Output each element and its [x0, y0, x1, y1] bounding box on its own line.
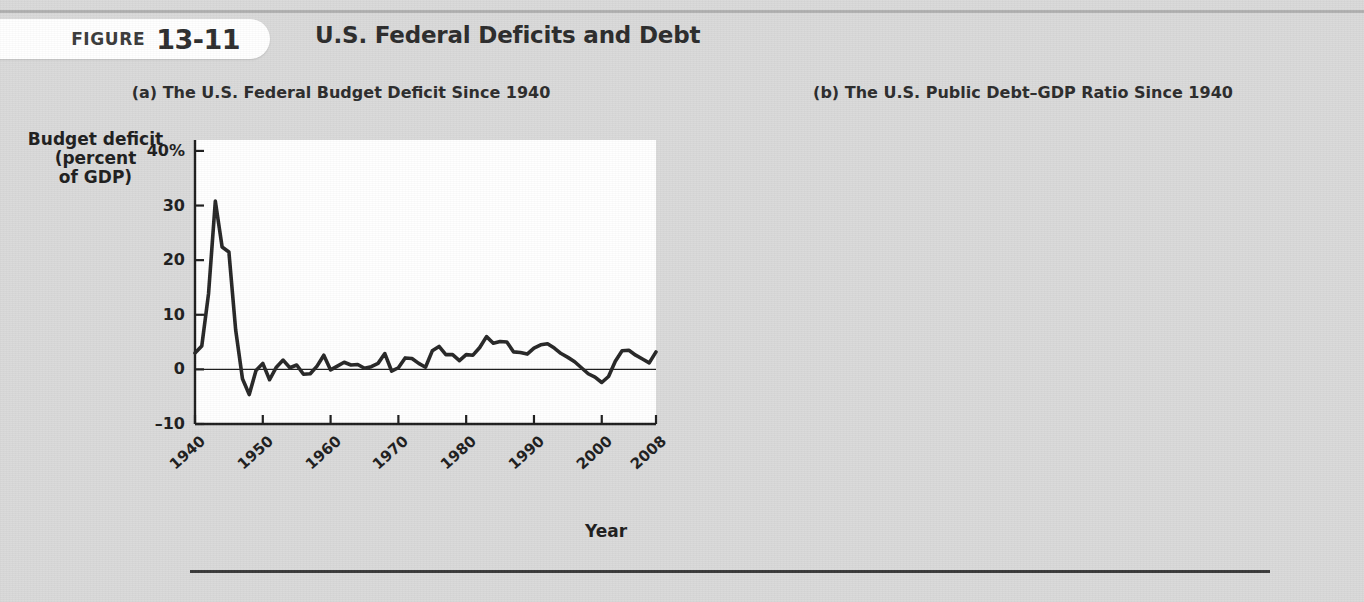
panel-a-plot-area: 40%3020100–10194019501960197019801990200… — [193, 136, 658, 456]
panel-a-y-tick-label: 30 — [25, 196, 185, 215]
panel-a-x-axis-title: Year — [585, 521, 627, 541]
panel-a-chart — [193, 136, 658, 456]
panel-a-y-tick-label: 40% — [25, 141, 185, 160]
panel-b-subtitle: (b) The U.S. Public Debt–GDP Ratio Since… — [682, 83, 1364, 102]
panel-b: (b) The U.S. Public Debt–GDP Ratio Since… — [682, 0, 1364, 602]
figure-bottom-rule — [190, 570, 1270, 573]
panel-a-subtitle: (a) The U.S. Federal Budget Deficit Sinc… — [0, 83, 682, 102]
panel-a-y-tick-label: –10 — [25, 414, 185, 433]
panel-a-y-tick-label: 0 — [25, 359, 185, 378]
panel-a-y-tick-label: 10 — [25, 305, 185, 324]
panel-a: (a) The U.S. Federal Budget Deficit Sinc… — [0, 0, 682, 602]
figure-container: Figure 13-11 U.S. Federal Deficits and D… — [0, 0, 1364, 602]
panel-a-y-tick-label: 20 — [25, 250, 185, 269]
